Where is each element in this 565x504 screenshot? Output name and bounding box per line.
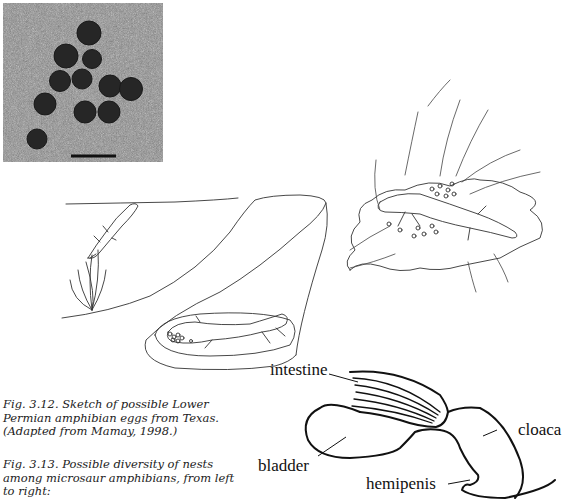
intestine-strands <box>352 378 440 423</box>
label-cloaca: cloaca <box>518 420 561 440</box>
hemipenis-outline <box>440 430 555 498</box>
label-hemipenis: hemipenis <box>366 474 436 494</box>
nest-plant-sprigs <box>350 80 540 292</box>
nest-mound <box>347 179 543 271</box>
figure-3-13-caption: Fig. 3.13. Possible diversity of nests a… <box>3 458 238 499</box>
label-leaders <box>318 374 497 484</box>
burrow-eggs <box>168 332 193 343</box>
bank-outline <box>62 195 326 370</box>
water-surface-line <box>66 198 238 204</box>
burrow-inner <box>296 203 327 355</box>
burrow-salamander <box>167 314 287 343</box>
intestine-outline <box>350 371 448 427</box>
label-bladder: bladder <box>258 456 309 476</box>
plant-salamander <box>88 204 138 259</box>
nest-eggs <box>387 182 456 238</box>
figure-3-12-caption: Fig. 3.12. Sketch of possible Lower Perm… <box>3 398 238 439</box>
aquatic-plant <box>70 250 106 310</box>
label-intestine: intestine <box>270 360 328 380</box>
cloaca-outline <box>448 408 523 499</box>
